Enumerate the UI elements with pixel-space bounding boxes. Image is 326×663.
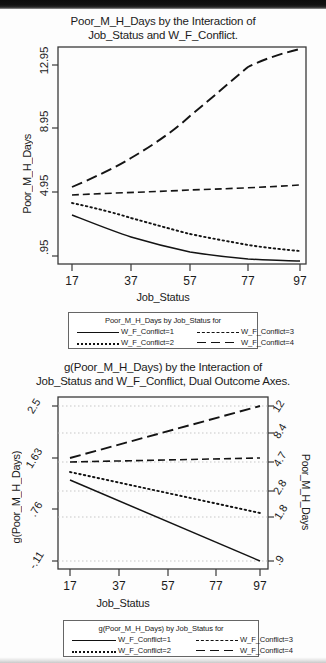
figure2-plot-area: g(Poor_M_H_Days) Poor_M_H_Days 2.5 1.63 …	[0, 389, 326, 619]
figure1-x-axis-title: Job_Status	[0, 291, 326, 303]
figure2-legend-label-wfc1: W_F_Conflict=1	[118, 635, 194, 644]
figure1-canvas	[0, 42, 326, 272]
figure1-x-tick-57: 57	[175, 274, 205, 288]
figure1-legend-label-wfc4: W_F_Conflict=4	[241, 338, 315, 347]
figure2-x-tick-97: 97	[245, 579, 275, 593]
figure1-x-tick-17: 17	[57, 274, 87, 288]
figure1-x-tick-37: 37	[116, 274, 146, 288]
figure1-legend-swatch-wfc4	[195, 339, 241, 347]
figure2-legend-swatch-wfc4	[194, 647, 240, 655]
figure1-legend-title: Poor_M_H_Days by Job_Status for	[69, 313, 257, 325]
figure2-series-wfc4	[70, 406, 260, 458]
figure1-series-wfc1	[72, 215, 300, 261]
figure1-legend: Poor_M_H_Days by Job_Status for W_F_Conf…	[68, 312, 258, 349]
figure2-title: g(Poor_M_H_Days) by the Interaction of J…	[0, 361, 326, 388]
figure2-legend-title: g(Poor_M_H_Days) by Job_Status for	[64, 621, 258, 633]
figure1-legend-swatch-wfc2	[75, 339, 121, 347]
figure2-legend-label-wfc4: W_F_Conflict=4	[240, 646, 316, 655]
figure2-x-tick-17: 17	[55, 579, 85, 593]
figure2-canvas	[0, 389, 326, 589]
figure1-title: Poor_M_H_Days by the Interaction of Job_…	[0, 15, 326, 42]
figure1-x-tick-97: 97	[285, 274, 315, 288]
figure2-legend-label-wfc2: W_F_Conflict=2	[118, 646, 194, 655]
figure2-legend: g(Poor_M_H_Days) by Job_Status for W_F_C…	[63, 620, 259, 657]
figure2-series-wfc3	[70, 458, 260, 462]
figure-g-poor-mh-days-dual-axes: g(Poor_M_H_Days) by the Interaction of J…	[0, 355, 326, 655]
figure1-legend-label-wfc1: W_F_Conflict=1	[121, 327, 195, 336]
figure2-legend-swatch-wfc2	[70, 647, 118, 655]
figure1-series-wfc3	[72, 185, 300, 195]
figure2-x-axis-title: Job_Status	[0, 597, 286, 609]
figure1-legend-swatch-wfc1	[75, 328, 121, 336]
figure2-x-tick-77: 77	[201, 579, 231, 593]
figure2-legend-swatch-wfc1	[70, 636, 118, 644]
figure1-series-wfc2	[72, 203, 300, 251]
figure1-legend-label-wfc2: W_F_Conflict=2	[121, 338, 195, 347]
figure2-x-tick-37: 37	[104, 579, 134, 593]
figure2-legend-swatch-wfc3	[194, 636, 240, 644]
figure1-legend-label-wfc3: W_F_Conflict=3	[241, 327, 315, 336]
figure2-x-tick-57: 57	[153, 579, 183, 593]
figure1-plot-area: Poor_M_H_Days 12.95 8.95 4.95 .95	[0, 42, 326, 307]
figure1-legend-swatch-wfc3	[195, 328, 241, 336]
figure1-series-wfc4	[72, 49, 300, 187]
figure1-x-tick-77: 77	[233, 274, 263, 288]
scan-artifact-top-band	[0, 0, 326, 9]
figure2-legend-label-wfc3: W_F_Conflict=3	[240, 635, 316, 644]
scan-artifact-bottom-band	[0, 657, 326, 663]
figure-poor-mh-days-interaction: Poor_M_H_Days by the Interaction of Job_…	[0, 9, 326, 349]
figure2-series-wfc1	[70, 480, 260, 561]
